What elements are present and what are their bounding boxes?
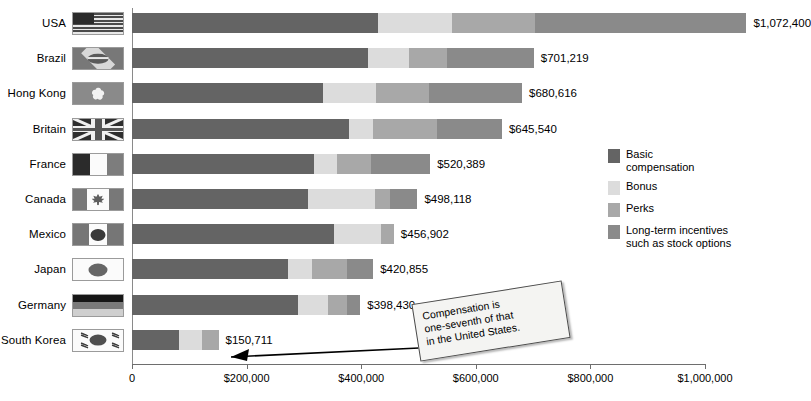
legend-label: Perks <box>626 202 654 215</box>
legend-swatch <box>608 203 620 217</box>
x-axis-line <box>132 364 705 365</box>
flag-icon-south-korea <box>72 329 124 352</box>
country-label: Hong Kong <box>0 78 66 108</box>
bar-value-label: $420,855 <box>373 259 428 279</box>
x-tick <box>247 364 248 369</box>
bar-row: Hong Kong$680,616 <box>0 78 733 108</box>
stacked-bar <box>132 83 522 103</box>
bar-segment-bonus <box>334 224 381 244</box>
flag-icon-germany <box>72 294 124 317</box>
flag-icon-hong-kong <box>72 82 124 105</box>
country-label: France <box>0 149 66 179</box>
stacked-bar <box>132 48 534 68</box>
bar-segment-bonus <box>368 48 409 68</box>
bar-segment-perks <box>452 13 536 33</box>
legend-label: Bonus <box>626 180 657 193</box>
bar-value-label: $1,072,400 <box>746 13 811 33</box>
bar-segment-basic <box>132 295 298 315</box>
x-tick <box>132 364 133 369</box>
legend-swatch <box>608 225 620 239</box>
bar-segment-perks <box>409 48 447 68</box>
stacked-bar <box>132 259 373 279</box>
bar-segment-bonus <box>378 13 451 33</box>
bar-segment-lti <box>429 83 522 103</box>
bar-value-label: $680,616 <box>522 83 577 103</box>
bar-segment-basic <box>132 83 323 103</box>
legend-item: Bonus <box>608 180 733 195</box>
flag-icon-brazil <box>72 47 124 70</box>
stacked-bar <box>132 154 430 174</box>
country-label: South Korea <box>0 325 66 355</box>
legend-label: Basic compensation <box>626 148 695 173</box>
flag-icon-canada <box>72 188 124 211</box>
legend: Basic compensationBonusPerksLong-term in… <box>608 148 733 256</box>
bar-segment-perks <box>373 119 437 139</box>
bar-segment-lti <box>371 154 430 174</box>
bar-segment-lti <box>535 13 746 33</box>
stacked-bar <box>132 119 502 139</box>
x-tick-label: $800,000 <box>567 372 613 384</box>
bar-segment-lti <box>390 189 418 209</box>
stacked-bar <box>132 13 746 33</box>
x-tick <box>361 364 362 369</box>
country-label: USA <box>0 8 66 38</box>
country-label: Mexico <box>0 219 66 249</box>
bar-segment-lti <box>447 48 534 68</box>
bar-row: USA$1,072,400 <box>0 8 733 38</box>
x-tick <box>590 364 591 369</box>
legend-label: Long-term incentives such as stock optio… <box>626 224 731 249</box>
bar-segment-perks <box>328 295 347 315</box>
x-tick <box>705 364 706 369</box>
flag-icon-mexico <box>72 223 124 246</box>
bar-segment-perks <box>312 259 348 279</box>
country-label: Brazil <box>0 43 66 73</box>
bar-segment-perks <box>381 224 394 244</box>
bar-segment-lti <box>347 295 360 315</box>
bar-segment-bonus <box>314 154 337 174</box>
flag-icon-japan <box>72 258 124 281</box>
bar-segment-basic <box>132 154 314 174</box>
bar-segment-perks <box>375 189 390 209</box>
flag-icon-britain <box>72 118 124 141</box>
flag-icon-france <box>72 153 124 176</box>
bar-value-label: $498,118 <box>417 189 471 209</box>
bar-segment-bonus <box>298 295 328 315</box>
stacked-bar <box>132 189 417 209</box>
x-tick-label: $200,000 <box>224 372 270 384</box>
legend-item: Basic compensation <box>608 148 733 173</box>
x-tick-label: $1,000,000 <box>677 372 732 384</box>
bar-row: Japan$420,855 <box>0 254 733 284</box>
bar-value-label: $398,430 <box>360 295 415 315</box>
bar-segment-lti <box>437 119 502 139</box>
bar-segment-bonus <box>349 119 373 139</box>
legend-swatch <box>608 149 620 163</box>
x-tick-label: $600,000 <box>453 372 499 384</box>
bar-segment-basic <box>132 224 334 244</box>
bar-value-label: $645,540 <box>502 119 557 139</box>
x-tick-label: $400,000 <box>338 372 384 384</box>
bar-segment-bonus <box>179 330 202 350</box>
bar-row: Britain$645,540 <box>0 114 733 144</box>
flag-icon-usa <box>72 12 124 35</box>
country-label: Japan <box>0 254 66 284</box>
bar-segment-basic <box>132 330 179 350</box>
bar-segment-basic <box>132 13 378 33</box>
x-tick-label: 0 <box>129 372 135 384</box>
callout-arrow-icon <box>205 345 420 361</box>
x-tick <box>476 364 477 369</box>
bar-segment-perks <box>337 154 371 174</box>
legend-item: Perks <box>608 202 733 217</box>
bar-segment-basic <box>132 119 349 139</box>
bar-segment-lti <box>347 259 373 279</box>
bar-row: Brazil$701,219 <box>0 43 733 73</box>
bar-segment-bonus <box>323 83 376 103</box>
country-label: Canada <box>0 184 66 214</box>
country-label: Britain <box>0 114 66 144</box>
country-label: Germany <box>0 290 66 320</box>
bar-segment-bonus <box>288 259 312 279</box>
bar-value-label: $456,902 <box>394 224 449 244</box>
stacked-bar <box>132 224 394 244</box>
bar-row: Germany$398,430 <box>0 290 733 320</box>
stacked-bar <box>132 295 360 315</box>
